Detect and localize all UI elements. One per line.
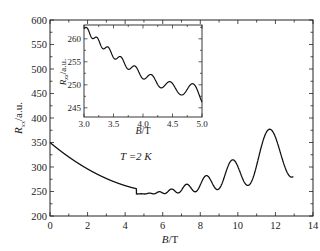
y-tick-label: 250 [31, 186, 47, 197]
x-tick-label: 2 [85, 220, 90, 231]
inset-y-tick-label: 255 [68, 57, 82, 67]
inset-plot: 3.03.54.04.55.0245250255260 [68, 25, 209, 129]
y-tick-label: 300 [31, 162, 47, 173]
inset-y-tick-label: 245 [68, 103, 82, 113]
y-tick-label: 600 [31, 15, 47, 26]
inset-x-tick-label: 4.5 [167, 119, 179, 129]
x-tick-label: 10 [233, 220, 244, 231]
y-tick-label: 350 [31, 137, 47, 148]
main-x-axis-label: B/T [162, 233, 179, 245]
x-tick-label: 4 [123, 220, 129, 231]
x-tick-label: 14 [308, 220, 319, 231]
x-tick-label: 8 [198, 220, 203, 231]
x-tick-label: 12 [270, 220, 281, 231]
x-tick-label: 6 [160, 220, 165, 231]
inset-x-tick-label: 3.5 [108, 119, 120, 129]
inset-y-tick-label: 250 [68, 80, 82, 90]
inset-y-axis-label: Rxx/a.u. [58, 59, 69, 86]
temperature-annotation: T =2 K [120, 150, 152, 162]
inset-x-tick-label: 3.0 [78, 119, 90, 129]
inset-x-tick-label: 5.0 [196, 119, 208, 129]
y-tick-label: 450 [31, 88, 47, 99]
inset-x-axis-label: B/T [136, 125, 151, 136]
y-tick-label: 500 [31, 64, 47, 75]
x-tick-label: 0 [47, 220, 52, 231]
main-y-axis-label: Rxx/a.u. [12, 102, 27, 135]
inset-background [84, 25, 202, 117]
y-tick-label: 400 [31, 113, 47, 124]
y-tick-label: 200 [31, 211, 47, 222]
main-data-line [50, 129, 293, 194]
y-tick-label: 550 [31, 39, 47, 50]
inset-y-tick-label: 260 [68, 34, 82, 44]
shubnikov-de-haas-chart: 02468101214200250300350400450500550600 3… [0, 0, 320, 251]
